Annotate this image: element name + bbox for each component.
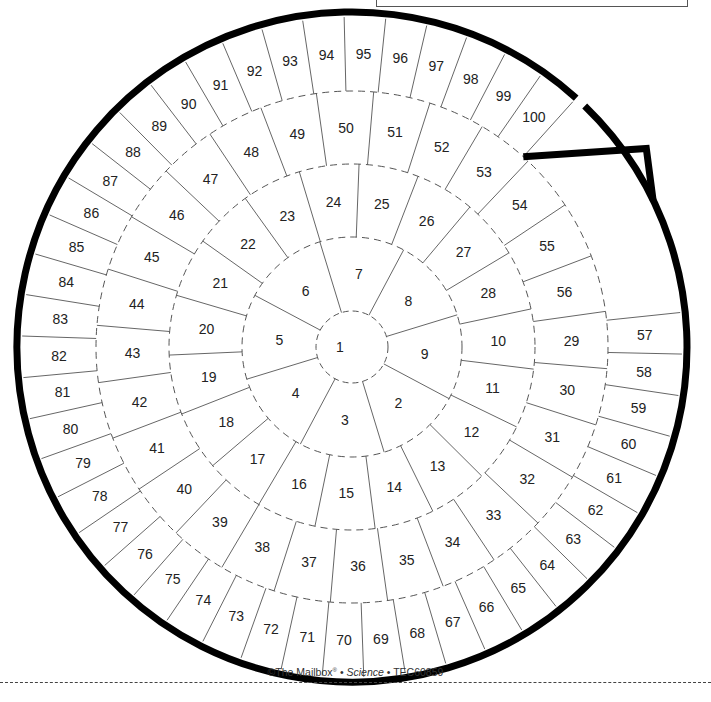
- cell-divider: [363, 381, 385, 452]
- board-cell-label: 41: [149, 440, 165, 456]
- cell-divider: [261, 108, 287, 176]
- board-cell-label: 10: [491, 333, 507, 349]
- board-cell-label: 61: [606, 470, 622, 486]
- board-cell-label: 17: [250, 451, 266, 467]
- cell-divider: [384, 364, 449, 399]
- cell-divider: [247, 358, 318, 380]
- cell-divider: [330, 529, 336, 602]
- cell-divider: [605, 385, 678, 396]
- board-cell-label: 70: [336, 632, 352, 648]
- board-cell-label: 77: [113, 519, 129, 535]
- board-cell-label: 69: [373, 631, 389, 647]
- ring-divider: [169, 164, 535, 530]
- board-cell-label: 5: [275, 332, 283, 348]
- cell-divider: [274, 521, 296, 591]
- cell-divider: [451, 395, 517, 427]
- board-cell-label: 64: [539, 557, 555, 573]
- cell-divider: [299, 172, 320, 242]
- cell-divider: [369, 250, 404, 315]
- board-cell-label: 32: [520, 471, 536, 487]
- board-cell-label: 98: [463, 71, 479, 87]
- board-cell-label: 89: [152, 118, 168, 134]
- board-cell-label: 18: [219, 414, 235, 430]
- board-cell-label: 76: [137, 546, 153, 562]
- board-cell-label: 62: [588, 502, 604, 518]
- cell-divider: [461, 360, 533, 369]
- board-cell-label: 99: [496, 88, 512, 104]
- cell-divider: [356, 164, 359, 237]
- cell-divider: [598, 416, 669, 436]
- cell-divider: [186, 62, 223, 126]
- board-cell-label: 60: [621, 436, 637, 452]
- board-cell-label: 15: [339, 485, 355, 501]
- board-cell-label: 55: [539, 238, 555, 254]
- board-cell-label: 6: [302, 283, 310, 299]
- board-cell-label: 78: [92, 488, 108, 504]
- board-cell-label: 52: [434, 139, 450, 155]
- cell-divider: [92, 144, 150, 190]
- cell-divider: [608, 352, 682, 354]
- cell-divider: [79, 491, 140, 533]
- board-cell-label: 57: [637, 327, 653, 343]
- copyright-footer: ©The Mailbox® • Science • TEC60859: [0, 666, 711, 678]
- board-cell-label: 48: [244, 144, 260, 160]
- board-cell-label: 31: [545, 429, 561, 445]
- board-cell-label: 86: [84, 205, 100, 221]
- cell-divider: [97, 325, 170, 331]
- board-cell-label: 38: [254, 539, 270, 555]
- board-cell-label: 87: [103, 173, 119, 189]
- cell-divider: [377, 528, 387, 600]
- board-cell-label: 88: [125, 144, 141, 160]
- cell-divider: [392, 176, 418, 244]
- board-cell-label: 59: [631, 400, 647, 416]
- board-cell-label: 8: [404, 293, 412, 309]
- cell-divider: [26, 295, 99, 307]
- board-cell-label: 13: [430, 458, 446, 474]
- board-outer-border: [17, 12, 687, 682]
- board-cell-label: 95: [356, 46, 372, 62]
- board-cell-label: 82: [51, 348, 67, 364]
- cell-divider: [30, 403, 102, 419]
- board-cell-label: 33: [486, 507, 502, 523]
- board-cell-label: 68: [410, 625, 426, 641]
- cell-divider: [386, 315, 457, 337]
- board-cell-label: 66: [479, 599, 495, 615]
- board-end-notch: [523, 148, 653, 200]
- cell-divider: [425, 592, 446, 663]
- board-cell-label: 79: [75, 455, 91, 471]
- board-cell-label: 75: [165, 571, 181, 587]
- center-circle: [316, 311, 388, 383]
- board-cell-label: 14: [386, 479, 402, 495]
- board-cell-label: 25: [374, 196, 390, 212]
- board-cell-label: 67: [445, 614, 461, 630]
- copyright-text: ©The Mailbox: [268, 666, 333, 678]
- cell-divider: [262, 29, 282, 100]
- cell-divider: [320, 242, 342, 313]
- board-cell-label: 22: [240, 236, 256, 252]
- cell-divider: [408, 103, 430, 173]
- board-cell-label: 84: [58, 274, 74, 290]
- board-cell-label: 20: [199, 321, 215, 337]
- board-cell-label: 26: [419, 213, 435, 229]
- board-cell-label: 100: [522, 109, 546, 125]
- cell-divider: [132, 217, 195, 254]
- cell-divider: [533, 311, 605, 321]
- board-cell-label: 37: [301, 554, 317, 570]
- cell-divider: [169, 352, 242, 355]
- cell-divider: [113, 412, 181, 438]
- board-cell-label: 28: [481, 285, 497, 301]
- cell-divider: [470, 54, 504, 120]
- cell-divider: [182, 387, 250, 414]
- board-cell-label: 96: [392, 50, 408, 66]
- board-cell-label: 81: [55, 384, 71, 400]
- board-cell-label: 94: [319, 47, 335, 63]
- cell-divider: [58, 463, 124, 497]
- board-cell-label: 72: [263, 621, 279, 637]
- cell-divider: [322, 602, 329, 676]
- board-cell-label: 53: [476, 164, 492, 180]
- board-cell-label: 4: [292, 385, 300, 401]
- board-cell-label: 44: [129, 296, 145, 312]
- cell-divider: [35, 254, 106, 275]
- board-cell-label: 35: [399, 552, 415, 568]
- cell-divider: [417, 518, 443, 586]
